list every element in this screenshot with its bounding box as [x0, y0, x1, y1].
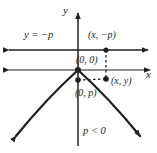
directrix-equation-label: y = −p: [24, 30, 53, 41]
point-dot-focus: [75, 77, 81, 83]
point-on-parabola-label: (x, y): [111, 76, 132, 86]
point-dot-on-parabola: [103, 76, 109, 82]
focal-radius-line: [78, 79, 106, 80]
vertex-label: (0, 0): [76, 55, 98, 65]
figure-canvas: [0, 0, 157, 153]
x-axis-label: x: [146, 69, 151, 80]
y-axis-label: y: [63, 5, 68, 16]
condition-label: p < 0: [83, 126, 106, 137]
parabola-figure: y x y = −p (x, −p) (0, 0) (x, y) (0, p) …: [0, 0, 157, 153]
point-dot-on-directrix: [103, 47, 108, 52]
point-on-directrix-label: (x, −p): [88, 30, 116, 40]
focus-label: (0, p): [75, 88, 97, 98]
point-dot-vertex: [75, 67, 81, 73]
